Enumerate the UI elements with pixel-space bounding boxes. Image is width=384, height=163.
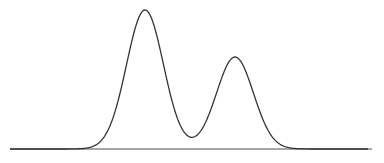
density-plot: [0, 0, 384, 163]
density-curve: [10, 10, 368, 149]
